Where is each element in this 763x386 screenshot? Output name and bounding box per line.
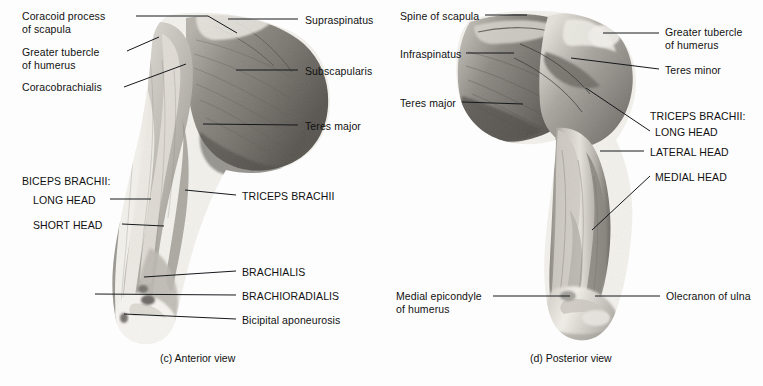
label-triceps-medial-head: MEDIAL HEAD [655,171,727,184]
anatomy-figure: Coracoid process of scapula Greater tube… [0,0,763,386]
label-teres-major-posterior: Teres major [400,97,456,110]
label-triceps-brachii-heading: TRICEPS BRACHII: [650,110,746,123]
label-teres-minor: Teres minor [665,64,721,77]
label-medial-epicondyle-of-humerus: Medial epicondyle of humerus [396,290,482,315]
label-triceps-long-head: LONG HEAD [655,126,718,139]
label-greater-tubercle-of-humerus-posterior: Greater tubercle of humerus [665,26,742,51]
label-olecranon-of-ulna: Olecranon of ulna [666,290,751,303]
label-infraspinatus: Infraspinatus [400,48,461,61]
label-triceps-lateral-head: LATERAL HEAD [650,146,729,159]
caption-posterior-view: (d) Posterior view [530,352,612,364]
label-spine-of-scapula: Spine of scapula [400,10,479,23]
panel-posterior-view: Spine of scapula Infraspinatus Teres maj… [0,0,763,386]
